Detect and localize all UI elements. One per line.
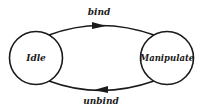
transition-unbind-label: unbind xyxy=(83,96,119,106)
state-manipulate-label: Manipulate xyxy=(139,53,195,63)
transition-bind-label: bind xyxy=(88,7,111,17)
state-diagram: bind unbind Idle Manipulate xyxy=(0,0,206,110)
arrow-left-icon xyxy=(94,86,108,93)
state-idle-label: Idle xyxy=(25,53,46,63)
arrow-right-icon xyxy=(92,22,106,29)
